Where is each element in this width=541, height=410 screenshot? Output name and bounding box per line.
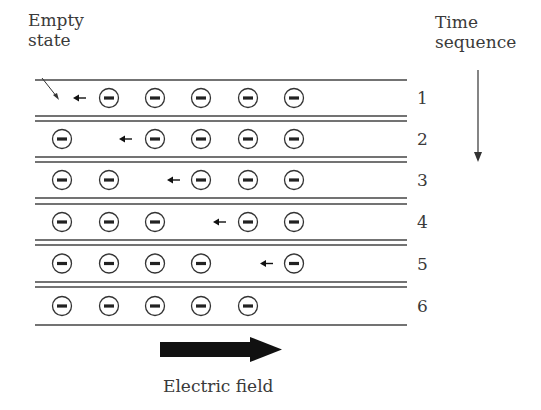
minus-sign-icon bbox=[196, 137, 206, 140]
minus-sign-icon bbox=[150, 262, 160, 265]
arrowhead-icon bbox=[119, 136, 125, 143]
minus-sign-icon bbox=[150, 220, 160, 223]
minus-sign-icon bbox=[289, 178, 299, 181]
arrowhead-icon bbox=[73, 95, 79, 102]
arrowhead-icon bbox=[167, 177, 173, 184]
minus-sign-icon bbox=[243, 304, 253, 307]
row-number: 5 bbox=[417, 254, 428, 274]
row-number: 6 bbox=[417, 296, 428, 316]
minus-sign-icon bbox=[196, 304, 206, 307]
minus-sign-icon bbox=[150, 137, 160, 140]
minus-sign-icon bbox=[57, 220, 67, 223]
minus-sign-icon bbox=[243, 96, 253, 99]
minus-sign-icon bbox=[289, 137, 299, 140]
row-number: 4 bbox=[417, 212, 428, 232]
arrowhead-icon bbox=[213, 219, 219, 226]
minus-sign-icon bbox=[104, 178, 114, 181]
row-number: 2 bbox=[417, 129, 428, 149]
time-arrowhead-icon bbox=[474, 152, 482, 162]
minus-sign-icon bbox=[196, 262, 206, 265]
row-number: 3 bbox=[417, 170, 428, 190]
minus-sign-icon bbox=[289, 262, 299, 265]
minus-sign-icon bbox=[104, 220, 114, 223]
minus-sign-icon bbox=[150, 96, 160, 99]
electric-field-arrow-icon bbox=[160, 342, 252, 357]
minus-sign-icon bbox=[243, 178, 253, 181]
minus-sign-icon bbox=[150, 304, 160, 307]
pointer-arrowhead-icon bbox=[53, 93, 59, 100]
minus-sign-icon bbox=[243, 137, 253, 140]
minus-sign-icon bbox=[104, 262, 114, 265]
minus-sign-icon bbox=[57, 262, 67, 265]
row-number: 1 bbox=[417, 88, 428, 108]
minus-sign-icon bbox=[289, 220, 299, 223]
minus-sign-icon bbox=[289, 96, 299, 99]
arrowhead-icon bbox=[260, 260, 266, 267]
minus-sign-icon bbox=[104, 304, 114, 307]
hole-conduction-diagram bbox=[0, 0, 541, 410]
minus-sign-icon bbox=[57, 304, 67, 307]
minus-sign-icon bbox=[196, 96, 206, 99]
minus-sign-icon bbox=[104, 96, 114, 99]
electric-field-arrowhead-icon bbox=[250, 337, 282, 362]
minus-sign-icon bbox=[57, 178, 67, 181]
minus-sign-icon bbox=[57, 137, 67, 140]
minus-sign-icon bbox=[243, 220, 253, 223]
minus-sign-icon bbox=[196, 178, 206, 181]
